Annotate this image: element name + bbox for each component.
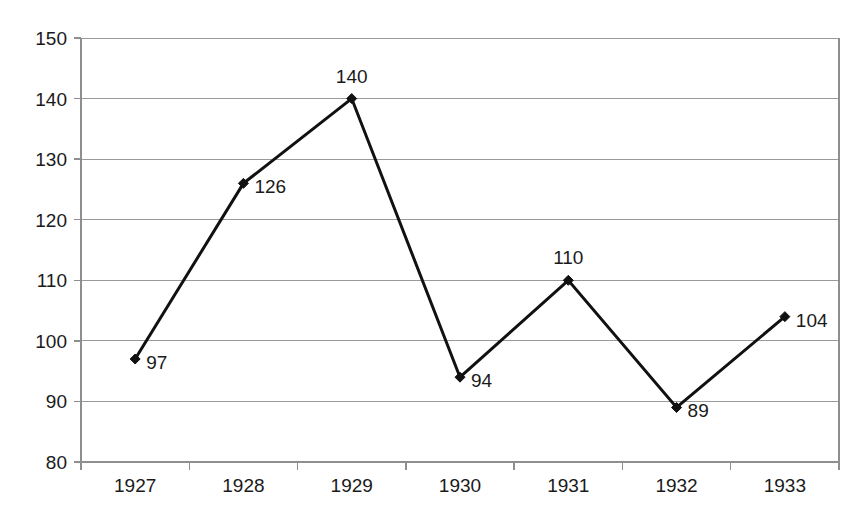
y-tick-label: 80 [46,452,67,473]
y-tick-label: 140 [35,89,67,110]
x-axis-tick-marks [81,462,839,470]
data-point-label: 104 [796,310,828,331]
x-axis-tick-labels: 1927192819291930193119321933 [114,475,806,496]
chart-canvas: 8090100110120130140150 19271928192919301… [0,0,867,516]
y-tick-label: 100 [35,331,67,352]
data-series-line [135,99,785,408]
x-tick-label: 1933 [764,475,806,496]
data-point-label: 89 [688,400,709,421]
y-axis-tick-labels: 8090100110120130140150 [35,28,67,473]
y-tick-label: 120 [35,210,67,231]
data-point-markers [130,94,790,413]
y-tick-label: 130 [35,149,67,170]
data-point-label: 126 [254,176,286,197]
data-point-label: 97 [146,352,167,373]
x-tick-label: 1927 [114,475,156,496]
y-tick-label: 110 [37,270,67,291]
data-point-label: 110 [553,247,583,268]
x-tick-label: 1929 [331,475,373,496]
x-tick-label: 1928 [222,475,264,496]
x-tick-label: 1930 [439,475,481,496]
y-axis-tick-marks [74,38,81,462]
data-point-label: 140 [336,66,368,87]
x-tick-label: 1931 [547,475,589,496]
gridlines [81,38,839,401]
y-tick-label: 150 [35,28,67,49]
x-tick-label: 1932 [655,475,697,496]
y-tick-label: 90 [46,391,67,412]
data-point-label: 94 [471,370,493,391]
line-chart: 8090100110120130140150 19271928192919301… [0,0,867,516]
